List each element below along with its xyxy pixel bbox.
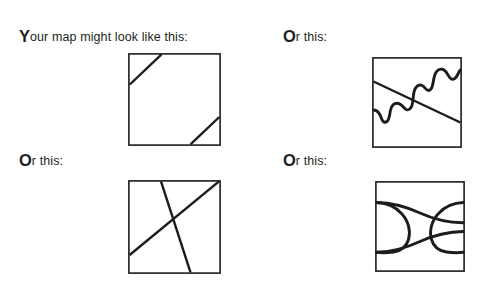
crossing-curve-a [377,203,410,253]
figure-square-with-two-corner-diagonals [128,53,221,146]
figure-square-with-diagonal-and-wavy-curve [372,57,462,148]
figure-square-with-crossing-curves-loop [375,181,465,272]
caption-top-right: Or this: [283,27,327,44]
caption-bottom-right: Or this: [283,151,327,168]
square-frame [129,181,220,273]
caption-initial-bottom-right: O [283,151,296,169]
sweep-curve-bottom [377,232,464,253]
caption-bottom-left: Or this: [19,151,63,168]
caption-text-top-left: our map might look like this: [30,30,188,44]
caption-text-bottom-right: r this: [296,154,327,168]
corner-diagonal-top-left [130,54,162,84]
caption-initial-bottom-left: O [19,151,32,169]
caption-initial-top-right: O [283,27,296,45]
crossing-curve-b [431,203,464,253]
illustration-page: Your map might look like this: Or this: … [0,0,489,288]
caption-text-top-right: r this: [296,30,327,44]
square-frame [376,182,464,271]
crossing-line-a [130,181,219,255]
square-frame [129,54,220,145]
figure-square-with-crossing-lines [128,180,221,274]
wavy-curve [374,69,461,122]
caption-initial-top-left: Y [19,27,30,45]
corner-diagonal-bottom-right [191,117,220,144]
caption-text-bottom-left: r this: [32,154,63,168]
caption-top-left: Your map might look like this: [19,27,188,44]
